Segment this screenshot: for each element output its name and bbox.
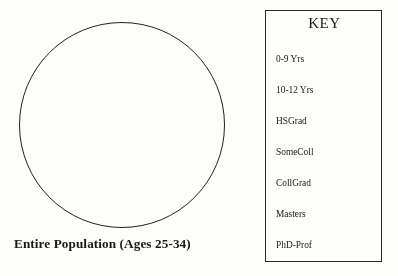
key-title: KEY: [266, 15, 383, 32]
education-attainment-diagram: Entire Population (Ages 25-34) KEY 0-9 Y…: [0, 0, 398, 276]
key-item-phd-prof: PhD-Prof: [266, 230, 383, 261]
population-group: Entire Population (Ages 25-34): [0, 0, 248, 276]
key-item-list: 0-9 Yrs 10-12 Yrs HSGrad SomeColl CollGr…: [266, 44, 383, 261]
key-item-masters: Masters: [266, 199, 383, 230]
key-item-0-9-yrs: 0-9 Yrs: [266, 44, 383, 75]
key-item-10-12-yrs: 10-12 Yrs: [266, 75, 383, 106]
key-item-hsgrad: HSGrad: [266, 106, 383, 137]
key-item-collgrad: CollGrad: [266, 168, 383, 199]
key-item-somecoll: SomeColl: [266, 137, 383, 168]
key-legend-box: KEY 0-9 Yrs 10-12 Yrs HSGrad SomeColl Co…: [265, 10, 382, 262]
population-caption: Entire Population (Ages 25-34): [14, 236, 240, 252]
population-circle: [19, 22, 225, 228]
